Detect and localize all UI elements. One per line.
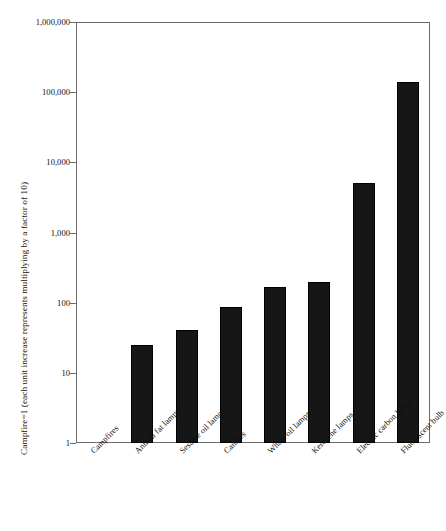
y-tick-label: 100,000 (42, 87, 70, 97)
bar-fluorescent-bulb[interactable] (397, 82, 419, 443)
bar-sesame-oil-lamps[interactable] (176, 330, 198, 443)
y-tick-label: 1,000 (51, 228, 70, 238)
bar-whale-oil-lamps[interactable] (264, 287, 286, 444)
bar-kerosene-lamps[interactable] (308, 282, 330, 443)
bar-electric-carbon-lamps[interactable] (353, 183, 375, 443)
y-tick-label: 10,000 (46, 157, 70, 167)
y-tick-label: 10 (61, 368, 70, 378)
bar-candles[interactable] (220, 307, 242, 443)
bars-layer (76, 22, 430, 443)
y-axis-ticks: 1,000,000100,00010,0001,000100101 (0, 0, 76, 531)
x-axis-labels: CampfiresAnimal fat lampsSesame oil lamp… (76, 443, 430, 531)
bar-animal-fat-lamps[interactable] (131, 345, 153, 443)
y-tick-label: 100 (57, 298, 70, 308)
y-tick-label: 1,000,000 (36, 17, 70, 27)
